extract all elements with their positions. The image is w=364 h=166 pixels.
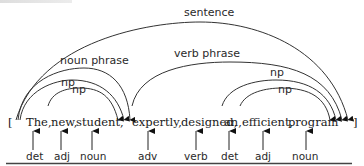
token: The, [26, 115, 52, 129]
token: an, [224, 115, 242, 129]
arc-label-verb-phrase: verb phrase [174, 47, 240, 60]
pos-label: det [26, 150, 43, 162]
close-bracket: ] [353, 115, 358, 129]
arc-label-np: np [278, 83, 292, 96]
pos-label: verb [184, 150, 208, 162]
pos-label: adj [255, 150, 271, 162]
pos-label: noun [80, 150, 106, 162]
pos-label: adj [54, 150, 70, 162]
pos-arrows [33, 131, 306, 150]
pos-label: det [221, 150, 238, 162]
parse-diagram: sentence noun phrase np np verb phrase n… [0, 0, 364, 166]
pos-label: adv [138, 150, 157, 162]
token: efficient, [242, 115, 293, 129]
open-bracket: [ [8, 115, 13, 129]
arc-verb-phrase: verb phrase [132, 47, 342, 120]
arc-label-np: np [72, 83, 86, 96]
token: program [288, 115, 338, 129]
pos-label: noun [292, 150, 318, 162]
arc-label-np: np [270, 66, 284, 79]
token: student, [76, 115, 124, 129]
arc-label-sentence: sentence [184, 6, 235, 19]
arc-label-noun-phrase: noun phrase [60, 54, 129, 67]
token: new, [51, 115, 77, 129]
token: expertly, [132, 115, 182, 129]
